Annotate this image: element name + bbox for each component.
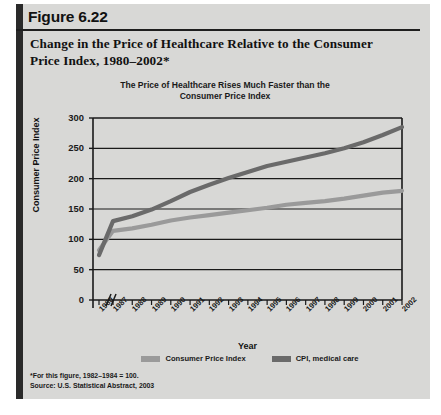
legend-item: Consumer Price Index [141,354,245,363]
chart-legend: Consumer Price IndexCPI, medical care [90,354,410,363]
figure-container: Figure 6.22 Change in the Price of Healt… [0,0,441,415]
legend-swatch-icon [141,356,160,362]
chart-canvas [0,0,441,415]
footnote-note: *For this figure, 1982–1984 = 100. [30,371,380,381]
legend-label: CPI, medical care [296,354,359,363]
x-axis-label: Year [90,341,405,351]
footnote-source: Source: U.S. Statistical Abstract, 2003 [30,381,380,391]
legend-label: Consumer Price Index [165,354,245,363]
plot-area: Consumer Price Index 050100150200250300 … [0,0,441,415]
legend-item: CPI, medical care [272,354,359,363]
figure-footnotes: *For this figure, 1982–1984 = 100. Sourc… [30,371,380,391]
legend-swatch-icon [272,356,291,362]
